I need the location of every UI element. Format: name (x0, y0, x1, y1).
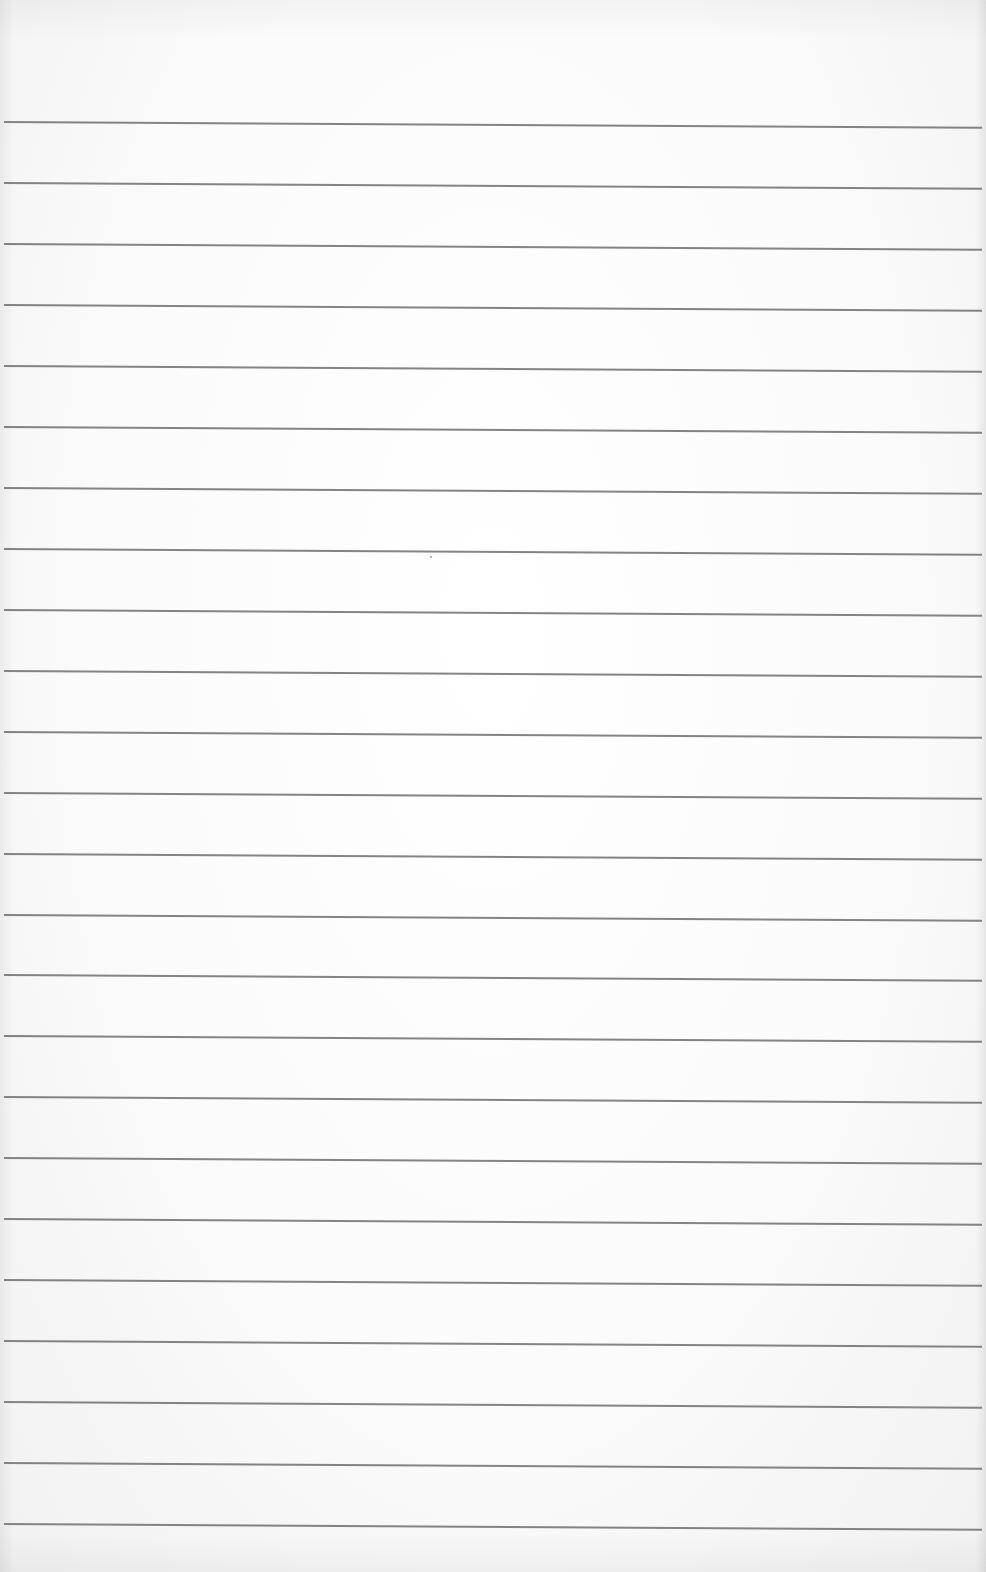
ruled-line (4, 304, 982, 311)
ruled-line (4, 1218, 982, 1225)
ruled-line (4, 548, 982, 555)
ruled-line (4, 121, 982, 128)
ruled-line (4, 365, 982, 372)
ruled-line (4, 974, 982, 981)
ruled-line (4, 1523, 982, 1530)
ruled-line (4, 1035, 982, 1042)
paper-speck (430, 556, 432, 558)
ruled-line (4, 1462, 982, 1469)
lined-paper-sheet (0, 0, 986, 1572)
ruled-line (4, 182, 982, 189)
ruled-line (4, 670, 982, 677)
ruled-line (4, 243, 982, 250)
ruled-line (4, 1157, 982, 1164)
ruled-line (4, 1401, 982, 1408)
ruled-line (4, 914, 982, 921)
ruled-line (4, 853, 982, 860)
ruled-line (4, 426, 982, 433)
ruled-line (4, 1340, 982, 1347)
ruled-line (4, 609, 982, 616)
ruled-line (4, 1096, 982, 1103)
ruled-line (4, 487, 982, 494)
ruled-line (4, 1279, 982, 1286)
ruled-line (4, 792, 982, 799)
ruled-line (4, 731, 982, 738)
